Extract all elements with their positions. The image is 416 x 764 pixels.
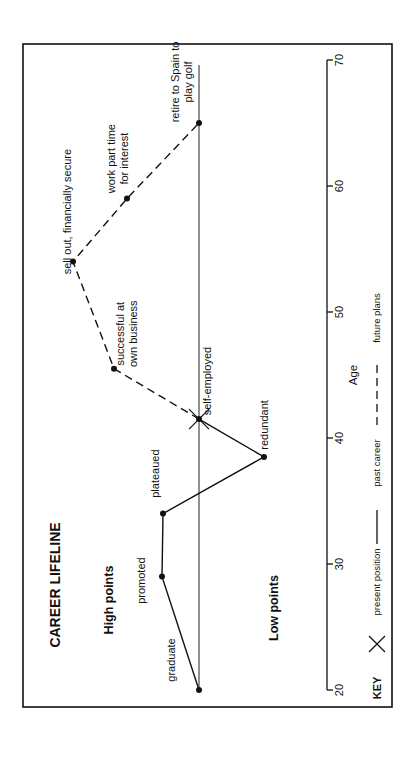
legend-title: KEY [371,676,383,699]
high-points-label: High points [102,566,116,635]
point-label: successful at [114,302,126,366]
age-tick-label-20: 20 [333,684,345,696]
past-career-line [162,419,264,690]
point-plateaued [160,511,166,517]
age-tick-label-60: 60 [333,180,345,192]
age-axis-label: Age [347,365,359,385]
career-lifeline-chart: CAREER LIFELINEHigh pointsLow points2030… [0,0,416,764]
point-label: sell out, financially secure [61,149,73,274]
point-label: promoted [135,557,147,603]
age-tick-label-50: 50 [333,306,345,318]
point-label: self-employed [201,347,213,415]
point-label: play golf [182,61,194,103]
point-label: own business [127,300,139,367]
point-label: retire to Spain to [169,42,181,123]
point-label: plateaued [149,449,161,497]
point-retire [196,120,202,126]
point-successful [111,366,117,372]
legend-past-career-label: past career [371,439,382,487]
point-label: for interest [118,133,130,185]
future-plans-line [73,123,199,419]
point-label: redundant [258,400,270,450]
chart-title-text: CAREER LIFELINE [47,522,63,647]
age-tick-label-70: 70 [333,54,345,66]
point-work [124,196,130,202]
age-tick-label-40: 40 [333,432,345,444]
point-redundant [261,454,267,460]
point-promoted [159,574,165,580]
age-tick-label-30: 30 [333,558,345,570]
point-label: graduate [165,638,177,681]
legend-future-plans-label: future plans [371,293,382,343]
career-lifeline-diagram: CAREER LIFELINEHigh pointsLow points2030… [0,0,416,764]
legend-present-position-label: present position [371,548,382,615]
low-points-label: Low points [267,575,281,641]
point-label: work part time [105,124,117,194]
point-graduate [196,687,202,693]
